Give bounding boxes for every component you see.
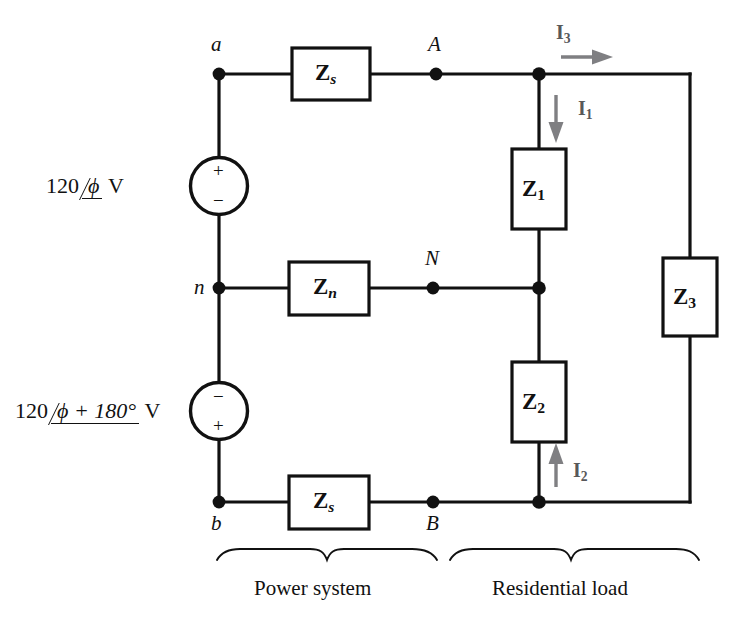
impedance-symbol: Z — [315, 60, 330, 85]
angle-icon: ϕ + 180° — [48, 400, 139, 424]
source-unit: V — [108, 173, 124, 198]
schematic-svg — [0, 0, 743, 629]
section-caption-residential-load: Residential load — [492, 578, 628, 599]
node-dot-N — [427, 282, 440, 295]
impedance-symbol: Z — [313, 488, 328, 513]
current-arrow-i3-head — [592, 50, 613, 65]
node-dot-b — [213, 496, 226, 509]
node-label-A: A — [428, 34, 441, 55]
current-arrow-i1-head — [549, 122, 564, 143]
impedance-label-zs-bottom: Zs — [313, 489, 334, 515]
current-label-i2: I2 — [573, 460, 588, 483]
impedance-symbol: Z — [673, 284, 688, 309]
current-arrow-i2-head — [549, 443, 564, 464]
impedance-subscript: 1 — [537, 186, 545, 203]
node-label-B: B — [426, 513, 439, 534]
node-dot-B — [427, 496, 440, 509]
impedance-label-z1: Z1 — [522, 177, 545, 203]
impedance-subscript: 2 — [537, 399, 545, 416]
junction-dot-middle — [532, 281, 546, 295]
node-label-b: b — [211, 513, 222, 534]
impedance-symbol: Z — [313, 274, 328, 299]
source-unit: V — [145, 398, 161, 423]
node-label-N: N — [425, 248, 439, 269]
polarity-plus-bottom-source: + — [213, 415, 224, 437]
impedance-subscript: s — [330, 70, 336, 87]
source-label-bottom: 120ϕ + 180° V — [15, 400, 160, 424]
brace-residential-load — [450, 549, 699, 560]
impedance-subscript: s — [328, 498, 334, 515]
impedance-label-zs-top: Zs — [315, 61, 336, 87]
circuit-diagram-figure: a n b A N B Zs Zn Zs Z1 Z2 Z3 I3 I1 I2 +… — [0, 0, 743, 629]
current-symbol: I — [556, 21, 564, 43]
polarity-minus-top-source: − — [213, 190, 224, 212]
impedance-subscript: 3 — [688, 294, 696, 311]
node-dot-n — [213, 282, 226, 295]
current-subscript: 3 — [564, 31, 571, 46]
junction-dot-top — [532, 67, 546, 81]
impedance-symbol: Z — [522, 389, 537, 414]
impedance-label-z3: Z3 — [673, 285, 696, 311]
impedance-label-zn: Zn — [313, 275, 337, 301]
current-label-i1: I1 — [578, 98, 593, 121]
node-dot-A — [430, 68, 443, 81]
section-caption-power-system: Power system — [254, 578, 371, 599]
node-dot-a — [213, 68, 226, 81]
node-label-a: a — [211, 34, 222, 55]
source-angle: ϕ + 180° — [57, 398, 136, 423]
current-label-i3: I3 — [556, 22, 571, 45]
impedance-subscript: n — [328, 284, 337, 301]
source-label-top: 120ϕ V — [46, 175, 124, 199]
current-subscript: 2 — [581, 469, 588, 484]
polarity-minus-bottom-source: − — [213, 386, 224, 408]
impedance-symbol: Z — [522, 176, 537, 201]
current-symbol: I — [578, 97, 586, 119]
impedance-label-z2: Z2 — [522, 390, 545, 416]
source-magnitude: 120 — [46, 173, 79, 198]
source-magnitude: 120 — [15, 398, 48, 423]
current-subscript: 1 — [586, 107, 593, 122]
angle-icon: ϕ — [79, 175, 102, 199]
current-symbol: I — [573, 459, 581, 481]
node-label-n: n — [194, 277, 205, 298]
junction-dot-bottom — [532, 495, 546, 509]
brace-power-system — [217, 549, 437, 560]
polarity-plus-top-source: + — [213, 160, 224, 182]
